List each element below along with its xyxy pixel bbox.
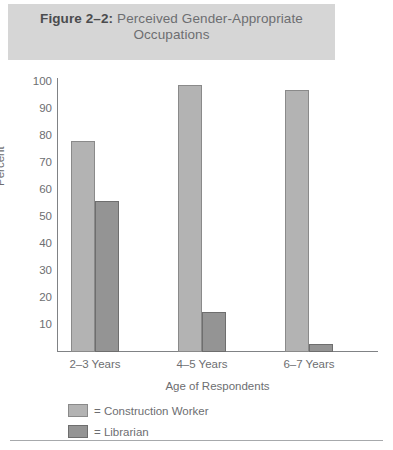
legend-swatch-icon (68, 404, 88, 417)
legend-item-librarian: = Librarian (68, 423, 209, 440)
y-tick-label: 90 (12, 103, 52, 115)
legend-label: = Construction Worker (94, 405, 209, 417)
legend-item-construction-worker: = Construction Worker (68, 402, 209, 419)
y-tick-label: 50 (12, 211, 52, 223)
y-tick-label: 40 (12, 238, 52, 250)
y-tick-label: 60 (12, 184, 52, 196)
y-tick-label: 80 (12, 130, 52, 142)
bar-construction-worker (285, 90, 309, 352)
footer-divider (10, 440, 383, 441)
x-axis-label: Age of Respondents (57, 380, 378, 392)
y-tick-label: 100 (12, 76, 52, 88)
bar-chart: Percent 102030405060708090100 2–3 Years4… (0, 0, 393, 450)
bar-construction-worker (71, 141, 95, 352)
x-tick-label: 4–5 Years (157, 358, 247, 370)
x-tick-label: 6–7 Years (264, 358, 354, 370)
bar-construction-worker (178, 85, 202, 352)
bar-librarian (95, 201, 119, 352)
y-tick-label: 20 (12, 292, 52, 304)
bar-librarian (202, 312, 226, 353)
y-tick-label: 30 (12, 265, 52, 277)
bar-librarian (309, 344, 333, 352)
x-tick-label: 2–3 Years (50, 358, 140, 370)
y-tick-label: 70 (12, 157, 52, 169)
y-axis-label: Percent (0, 146, 6, 186)
chart-legend: = Construction Worker = Librarian (68, 402, 209, 444)
legend-label: = Librarian (94, 426, 149, 438)
legend-swatch-icon (68, 425, 88, 438)
y-tick-label: 10 (12, 319, 52, 331)
